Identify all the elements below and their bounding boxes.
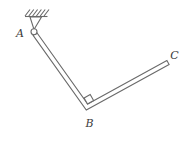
label-c: C <box>170 49 179 62</box>
ground-hatching-icon <box>25 10 49 17</box>
bent-bar-abc <box>33 33 169 110</box>
mechanics-figure: A B C <box>0 0 185 157</box>
label-b: B <box>84 117 93 130</box>
diagram-svg: A B C <box>0 0 185 157</box>
pin-support <box>25 10 49 30</box>
support-bracket <box>30 17 42 30</box>
pin-circle-a <box>31 29 37 35</box>
label-a: A <box>15 27 24 40</box>
